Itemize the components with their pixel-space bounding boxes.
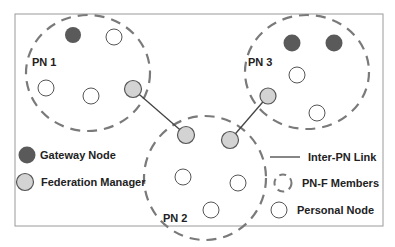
gateway-node — [326, 35, 343, 52]
federation-manager-node — [178, 127, 195, 144]
federation-manager-node — [125, 81, 142, 98]
legend-federation-manager-icon — [17, 174, 34, 191]
legend-personal-node-label: Personal Node — [297, 204, 374, 216]
personal-node — [175, 169, 191, 185]
legend-gateway-icon — [19, 147, 36, 164]
personal-node — [289, 67, 305, 83]
personal-node — [106, 29, 122, 45]
personal-node — [38, 80, 54, 96]
gateway-node — [65, 27, 81, 43]
pn1-label: PN 1 — [32, 56, 56, 68]
personal-node — [230, 175, 246, 191]
pn-federation-diagram: PN 1 PN 2 PN 3 Gateway Node Federation M… — [0, 0, 395, 247]
legend-pnf-members-label: PN-F Members — [302, 177, 379, 189]
personal-node — [309, 105, 325, 121]
personal-node — [203, 202, 219, 218]
legend-inter-pn-link-label: Inter-PN Link — [308, 151, 377, 163]
legend-personal-node-icon — [271, 202, 287, 218]
gateway-node — [284, 35, 301, 52]
pn2-label: PN 2 — [163, 212, 187, 224]
legend-federation-manager-label: Federation Manager — [41, 176, 146, 188]
federation-manager-node — [222, 132, 239, 149]
pn3-label: PN 3 — [248, 56, 272, 68]
federation-manager-node — [260, 88, 276, 104]
personal-node — [83, 88, 99, 104]
legend-gateway-label: Gateway Node — [40, 149, 116, 161]
